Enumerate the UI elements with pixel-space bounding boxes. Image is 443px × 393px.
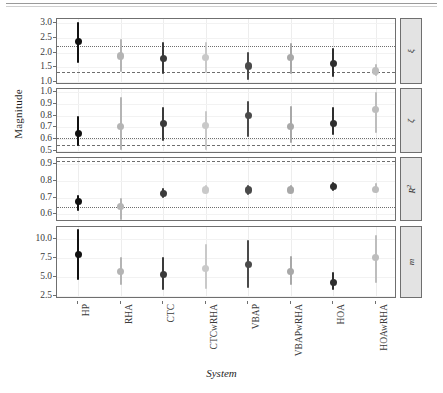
data-point (245, 112, 252, 119)
y-axis-tick-label: 0.6 (6, 208, 52, 218)
data-point (372, 106, 379, 113)
data-point (287, 186, 294, 193)
data-point (117, 268, 124, 275)
y-axis-tick-mark (53, 103, 56, 104)
data-point (245, 186, 252, 193)
reference-line-dotted (57, 46, 395, 47)
data-point (330, 60, 337, 67)
y-axis-tick-mark (53, 91, 56, 92)
grid-line-horizontal (57, 23, 395, 24)
facet-strip-label: ξ (406, 49, 416, 53)
grid-line-horizontal (57, 214, 395, 215)
x-axis-tick-mark (77, 301, 78, 304)
y-axis-tick-label: 3.0 (6, 17, 52, 27)
facet-strip-m: m (400, 226, 422, 298)
facet-panel-xi (56, 18, 396, 84)
data-point (287, 54, 294, 61)
reference-line-dotted (57, 138, 395, 139)
x-axis-tick-mark (332, 301, 333, 304)
y-axis-tick-label: 0.9 (6, 98, 52, 108)
y-axis-tick-mark (53, 138, 56, 139)
x-axis-tick-label-hoawrha: HOAwRHA (379, 304, 389, 351)
facet-panel-R2 (56, 157, 396, 221)
y-axis-tick-mark (53, 115, 56, 116)
y-axis-tick-label: 1.5 (6, 61, 52, 71)
y-axis-tick-mark (53, 150, 56, 151)
y-axis-tick-mark (53, 126, 56, 127)
facet-strip-xi: ξ (400, 18, 422, 84)
x-axis-tick-mark (205, 301, 206, 304)
data-point (202, 265, 209, 272)
grid-line-horizontal (57, 239, 395, 240)
page-rule-top (6, 3, 437, 4)
y-axis-tick-label: 7.5 (6, 252, 52, 262)
grid-line-horizontal (57, 139, 395, 140)
y-axis-tick-label: 10.0 (6, 233, 52, 243)
facet-strip-label: ζ (406, 119, 416, 123)
facet-strip-label: R2 (405, 185, 417, 194)
data-point (245, 261, 252, 268)
data-point (160, 190, 167, 197)
y-axis-tick-mark (53, 238, 56, 239)
grid-line-horizontal (57, 67, 395, 68)
y-axis-tick-label: 5.0 (6, 271, 52, 281)
facet-strip-R2: R2 (400, 157, 422, 221)
page-rule-second (6, 6, 437, 7)
facet-strip-label: m (406, 259, 416, 266)
data-point (117, 52, 124, 59)
grid-line-horizontal (57, 116, 395, 117)
x-axis-tick-mark (247, 301, 248, 304)
data-point (287, 268, 294, 275)
x-axis-tick-mark (120, 301, 121, 304)
data-point (372, 186, 379, 193)
y-axis-tick-mark (53, 257, 56, 258)
x-axis-tick-mark (162, 301, 163, 304)
x-axis-tick-label-ctcwrha: CTCwRHA (209, 304, 219, 349)
y-axis-tick-label: 0.9 (6, 158, 52, 168)
data-point (330, 120, 337, 127)
grid-line-horizontal (57, 198, 395, 199)
grid-line-horizontal (57, 296, 395, 297)
y-axis-tick-label: 2.5 (6, 290, 52, 300)
y-axis-tick-mark (53, 197, 56, 198)
y-axis-tick-mark (53, 276, 56, 277)
data-point (287, 123, 294, 130)
grid-line-horizontal (57, 151, 395, 152)
y-axis-tick-label: 0.7 (6, 121, 52, 131)
data-point (75, 198, 82, 205)
y-axis-tick-label: 2.0 (6, 47, 52, 57)
grid-line-horizontal (57, 258, 395, 259)
grid-line-horizontal (57, 127, 395, 128)
data-point (117, 203, 124, 210)
reference-line-dashed (57, 72, 395, 73)
reference-line-dashed (57, 161, 395, 162)
x-axis-tick-label-rha: RHA (124, 304, 134, 324)
x-axis-tick-mark (375, 301, 376, 304)
x-axis-tick-label-hoa: HOA (336, 304, 346, 325)
figure-root: Magnitude System ξ1.01.52.02.53.0ζ0.50.6… (0, 0, 443, 393)
reference-line-dashed (57, 145, 395, 146)
y-axis-tick-mark (53, 213, 56, 214)
grid-line-horizontal (57, 104, 395, 105)
y-axis-tick-label: 0.6 (6, 133, 52, 143)
y-axis-tick-mark (53, 81, 56, 82)
data-point (75, 251, 82, 258)
data-point (372, 67, 379, 74)
y-axis-tick-label: 0.8 (6, 175, 52, 185)
data-point (75, 38, 82, 45)
x-axis-title: System (0, 367, 443, 379)
data-point (117, 123, 124, 130)
y-axis-tick-mark (53, 180, 56, 181)
data-point (160, 55, 167, 62)
y-axis-tick-label: 0.5 (6, 145, 52, 155)
grid-line-horizontal (57, 53, 395, 54)
y-axis-tick-mark (53, 66, 56, 67)
grid-line-horizontal (57, 164, 395, 165)
y-axis-tick-mark (53, 163, 56, 164)
facet-panel-m (56, 226, 396, 298)
grid-line-horizontal (57, 38, 395, 39)
y-axis-tick-label: 1.0 (6, 76, 52, 86)
x-axis-tick-label-vbap: VBAP (251, 304, 261, 329)
data-point (202, 186, 209, 193)
y-axis-tick-label: 2.5 (6, 32, 52, 42)
